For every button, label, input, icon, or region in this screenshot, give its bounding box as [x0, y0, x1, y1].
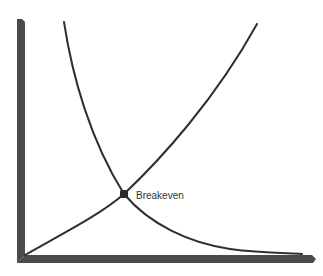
x-axis: [17, 255, 316, 263]
breakeven-diagram: [0, 0, 323, 276]
breakeven-marker: [120, 190, 128, 198]
breakeven-label: Breakeven: [136, 190, 184, 202]
increasing-curve: [25, 24, 257, 255]
decreasing-curve: [64, 22, 302, 254]
y-axis: [17, 19, 25, 263]
